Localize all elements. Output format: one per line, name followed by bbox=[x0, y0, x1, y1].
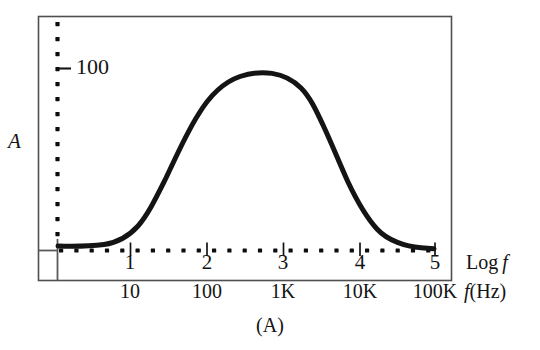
x-tick-label-3: 3 bbox=[268, 252, 298, 273]
x-tick-label-1: 1 bbox=[115, 252, 145, 273]
x-axis-label-logf: Logf bbox=[466, 252, 508, 272]
x-decade-label-100k: 100K bbox=[400, 281, 470, 301]
figure-container: A 100 1 2 3 4 5 10 100 1K 10K 100K Logf … bbox=[0, 0, 540, 350]
x-axis-label-fhz-unit: (Hz) bbox=[470, 280, 507, 302]
y-tick-label-100: 100 bbox=[76, 56, 109, 78]
x-axis-label-logf-variable: f bbox=[498, 251, 508, 273]
x-tick-label-4: 4 bbox=[345, 252, 375, 273]
y-axis-label: A bbox=[8, 131, 21, 152]
response-curve bbox=[58, 73, 434, 249]
x-axis-label-fhz: f(Hz) bbox=[464, 281, 506, 301]
y-axis-dotted bbox=[55, 22, 59, 236]
figure-caption: (A) bbox=[0, 315, 540, 335]
x-decade-label-100: 100 bbox=[172, 281, 242, 301]
x-decade-label-1k: 1K bbox=[248, 281, 318, 301]
x-tick-label-2: 2 bbox=[192, 252, 222, 273]
x-tick-label-5: 5 bbox=[420, 252, 450, 273]
x-decade-label-10: 10 bbox=[95, 281, 165, 301]
x-axis-label-logf-word: Log bbox=[466, 251, 498, 273]
x-decade-label-10k: 10K bbox=[325, 281, 395, 301]
